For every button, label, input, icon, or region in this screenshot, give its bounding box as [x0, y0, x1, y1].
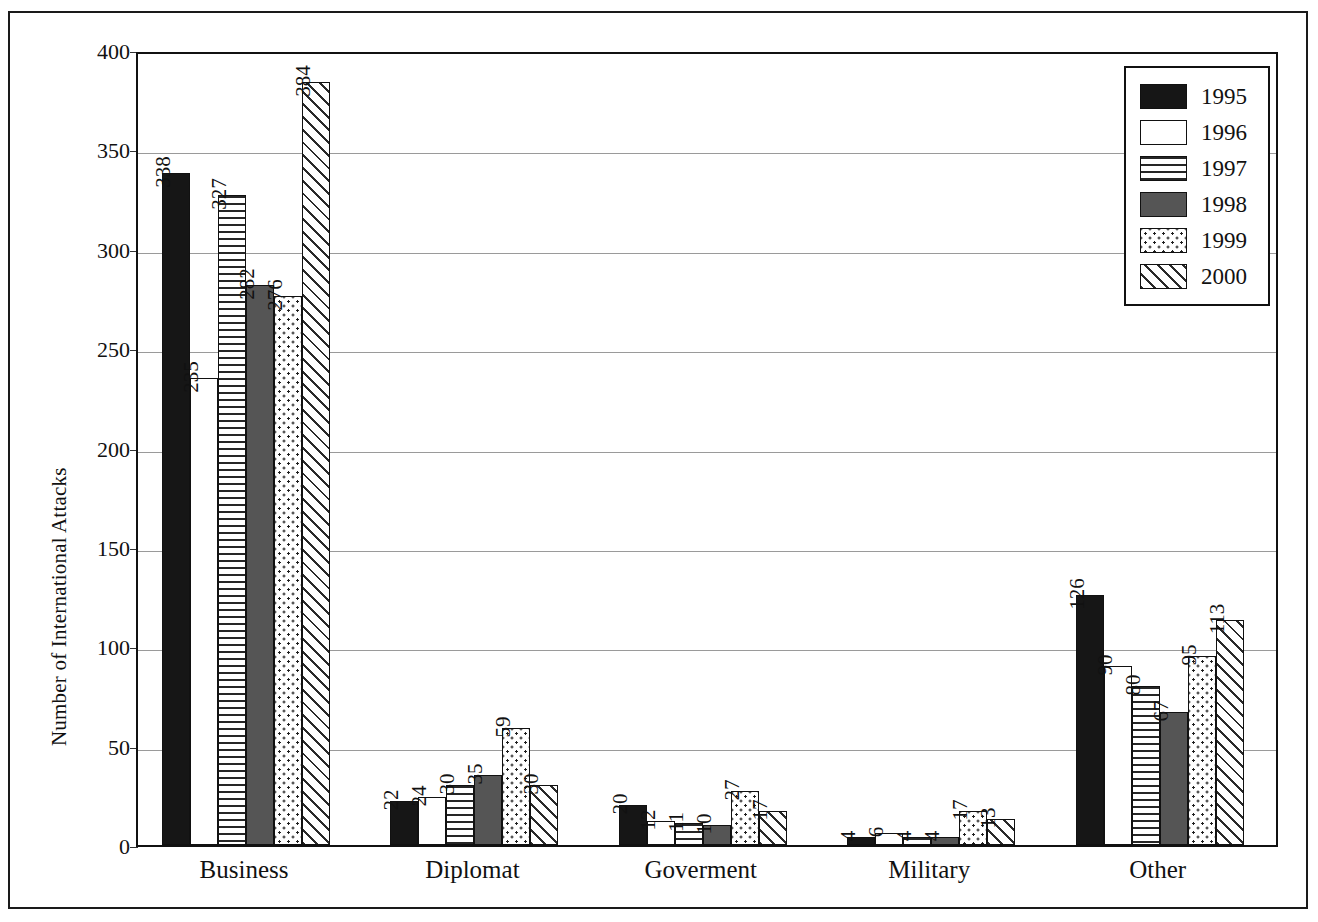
bar-value-label: 35 [463, 764, 488, 785]
bar-value-label: 24 [407, 786, 432, 807]
legend-label: 2000 [1201, 265, 1247, 288]
bar[interactable]: 30 [446, 785, 474, 845]
bar-group: 201211102717 [619, 54, 787, 845]
bar[interactable]: 35 [474, 775, 502, 845]
chart-page: Number of International Attacks 05010015… [0, 0, 1318, 922]
bar-value-label: 338 [151, 156, 176, 188]
bar-value-label: 95 [1177, 645, 1202, 666]
bar-value-label: 67 [1149, 700, 1174, 721]
legend-swatch-1999 [1140, 228, 1187, 253]
bar-value-label: 59 [491, 716, 516, 737]
bar-value-label: 11 [664, 812, 689, 832]
y-axis-tick-label: 150 [60, 536, 130, 562]
bar-value-label: 327 [207, 178, 232, 210]
bar[interactable]: 67 [1160, 712, 1188, 845]
bar[interactable]: 384 [302, 82, 330, 845]
legend-swatch-1995 [1140, 84, 1187, 109]
bar-value-label: 282 [235, 268, 260, 300]
x-axis-category-label: Diplomat [425, 856, 519, 884]
legend-item[interactable]: 1999 [1126, 222, 1268, 258]
bar[interactable]: 126 [1076, 595, 1104, 845]
legend-label: 1995 [1201, 85, 1247, 108]
bar[interactable]: 95 [1188, 656, 1216, 845]
bar[interactable]: 235 [190, 378, 218, 845]
legend-label: 1998 [1201, 193, 1247, 216]
bar-value-label: 12 [636, 810, 661, 831]
bar[interactable]: 276 [274, 296, 302, 845]
bar-value-label: 22 [379, 790, 404, 811]
bar-value-label: 17 [748, 800, 773, 821]
bar-value-label: 13 [976, 808, 1001, 829]
bar-value-label: 80 [1121, 675, 1146, 696]
y-axis-tick-label: 400 [60, 39, 130, 65]
legend-item[interactable]: 2000 [1126, 258, 1268, 294]
bar[interactable]: 113 [1216, 620, 1244, 845]
legend-swatch-1996 [1140, 120, 1187, 145]
legend: 199519961997199819992000 [1124, 66, 1270, 306]
bar-value-label: 4 [836, 831, 861, 842]
y-axis-tick-label: 250 [60, 337, 130, 363]
y-axis-tick-labels: 050100150200250300350400 [52, 52, 130, 847]
bar[interactable]: 22 [390, 801, 418, 845]
y-axis-tick-label: 50 [60, 735, 130, 761]
x-axis-category-label: Other [1129, 856, 1186, 884]
bar[interactable]: 17 [759, 811, 787, 845]
bar[interactable]: 4 [847, 837, 875, 845]
legend-swatch-2000 [1140, 264, 1187, 289]
bar-value-label: 20 [608, 794, 633, 815]
bar[interactable]: 4 [931, 837, 959, 845]
legend-swatch-1997 [1140, 156, 1187, 181]
legend-swatch-1998 [1140, 192, 1187, 217]
bar-value-label: 27 [720, 780, 745, 801]
legend-item[interactable]: 1998 [1126, 186, 1268, 222]
legend-label: 1996 [1201, 121, 1247, 144]
bar-value-label: 113 [1205, 604, 1230, 635]
bar-value-label: 17 [948, 800, 973, 821]
y-axis-tick-label: 0 [60, 834, 130, 860]
bar[interactable]: 30 [530, 785, 558, 845]
bar-value-label: 30 [435, 774, 460, 795]
legend-label: 1999 [1201, 229, 1247, 252]
bar-value-label: 276 [263, 280, 288, 312]
bar-value-label: 6 [864, 827, 889, 838]
bar[interactable]: 282 [246, 285, 274, 845]
bar[interactable]: 338 [162, 173, 190, 845]
bar-value-label: 126 [1065, 578, 1090, 610]
legend-item[interactable]: 1995 [1126, 78, 1268, 114]
plot-area: 3382353272822763842224303559302012111027… [136, 52, 1278, 847]
bar[interactable]: 13 [987, 819, 1015, 845]
bar-value-label: 4 [892, 831, 917, 842]
legend-item[interactable]: 1997 [1126, 150, 1268, 186]
legend-item[interactable]: 1996 [1126, 114, 1268, 150]
bars-layer: 3382353272822763842224303559302012111027… [138, 54, 1276, 845]
y-axis-tick-mark [130, 847, 138, 848]
bar-group: 338235327282276384 [162, 54, 330, 845]
bar-value-label: 30 [519, 774, 544, 795]
y-axis-tick-label: 350 [60, 138, 130, 164]
bar-value-label: 4 [920, 831, 945, 842]
bar-value-label: 384 [291, 65, 316, 97]
bar-value-label: 90 [1093, 655, 1118, 676]
bar-group: 222430355930 [390, 54, 558, 845]
y-axis-tick-label: 100 [60, 635, 130, 661]
bar[interactable]: 24 [418, 797, 446, 845]
y-axis-tick-label: 300 [60, 238, 130, 264]
bar-value-label: 235 [179, 361, 204, 393]
bar-value-label: 10 [692, 814, 717, 835]
x-axis-category-label: Goverment [645, 856, 757, 884]
legend-label: 1997 [1201, 157, 1247, 180]
y-axis-tick-label: 200 [60, 437, 130, 463]
bar[interactable]: 10 [703, 825, 731, 845]
x-axis-category-label: Business [200, 856, 289, 884]
bar-group: 46441713 [847, 54, 1015, 845]
x-axis-category-label: Military [888, 856, 970, 884]
